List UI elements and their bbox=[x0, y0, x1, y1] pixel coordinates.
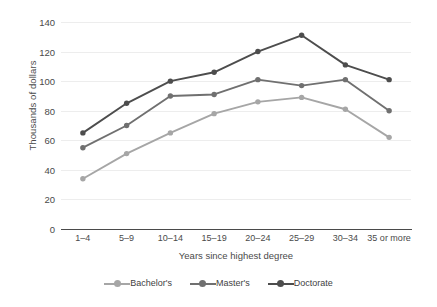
legend-label: Bachelor's bbox=[130, 278, 172, 288]
data-point bbox=[211, 92, 216, 97]
series-line-masters bbox=[83, 80, 389, 148]
data-point bbox=[211, 111, 216, 116]
data-point bbox=[299, 33, 304, 38]
y-tick-label: 80 bbox=[25, 105, 55, 116]
data-point bbox=[299, 95, 304, 100]
legend-label: Master's bbox=[216, 278, 250, 288]
y-tick-label: 120 bbox=[25, 46, 55, 57]
line-chart: Thousands of dollars 020406080100120140 … bbox=[0, 0, 437, 307]
data-point bbox=[80, 176, 85, 181]
x-axis-tick-labels: 1–45–910–1415–1920–2425–2930–3435 or mor… bbox=[61, 233, 411, 249]
legend-item-masters[interactable]: Master's bbox=[190, 278, 250, 288]
y-tick-label: 140 bbox=[25, 17, 55, 28]
legend-swatch-icon bbox=[268, 278, 294, 288]
chart-legend: Bachelor'sMaster'sDoctorate bbox=[0, 278, 437, 288]
data-point bbox=[299, 83, 304, 88]
data-point bbox=[255, 77, 260, 82]
y-tick-label: 60 bbox=[25, 135, 55, 146]
x-axis-line bbox=[61, 229, 412, 230]
data-point bbox=[80, 130, 85, 135]
data-point bbox=[343, 62, 348, 67]
data-point bbox=[211, 70, 216, 75]
x-tick-label: 15–19 bbox=[202, 233, 227, 243]
x-tick-label: 25–29 bbox=[289, 233, 314, 243]
data-point bbox=[124, 101, 129, 106]
data-point bbox=[343, 77, 348, 82]
data-point bbox=[386, 135, 391, 140]
x-axis-title: Years since highest degree bbox=[61, 250, 411, 261]
data-point bbox=[168, 130, 173, 135]
plot-area bbox=[61, 22, 411, 229]
y-axis-tick-labels: 020406080100120140 bbox=[22, 0, 55, 307]
x-tick-label: 10–14 bbox=[158, 233, 183, 243]
y-tick-label: 0 bbox=[25, 224, 55, 235]
legend-label: Doctorate bbox=[294, 278, 333, 288]
series-line-doctorate bbox=[83, 35, 389, 133]
series-layer bbox=[61, 22, 411, 229]
legend-swatch-icon bbox=[104, 278, 130, 288]
data-point bbox=[343, 107, 348, 112]
y-tick-label: 40 bbox=[25, 164, 55, 175]
data-point bbox=[386, 108, 391, 113]
legend-swatch-icon bbox=[190, 278, 216, 288]
x-tick-label: 20–24 bbox=[245, 233, 270, 243]
x-tick-label: 1–4 bbox=[75, 233, 90, 243]
y-tick-label: 20 bbox=[25, 194, 55, 205]
data-point bbox=[168, 78, 173, 83]
legend-item-bachelors[interactable]: Bachelor's bbox=[104, 278, 172, 288]
data-point bbox=[255, 49, 260, 54]
x-tick-label: 5–9 bbox=[119, 233, 134, 243]
data-point bbox=[80, 145, 85, 150]
data-point bbox=[124, 123, 129, 128]
x-tick-label: 35 or more bbox=[367, 233, 411, 243]
data-point bbox=[255, 99, 260, 104]
legend-item-doctorate[interactable]: Doctorate bbox=[268, 278, 333, 288]
data-point bbox=[386, 77, 391, 82]
y-tick-label: 100 bbox=[25, 76, 55, 87]
x-tick-label: 30–34 bbox=[333, 233, 358, 243]
data-point bbox=[124, 151, 129, 156]
data-point bbox=[168, 93, 173, 98]
